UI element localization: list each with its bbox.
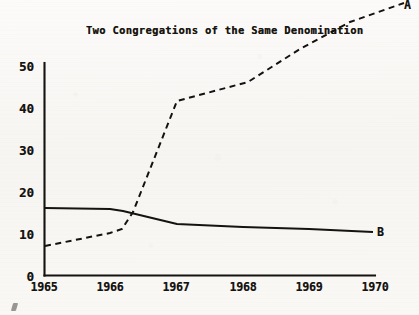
series-line-b <box>45 208 373 232</box>
chart-figure: Two Congregations of the Same Denominati… <box>0 0 419 315</box>
axis-lines <box>45 63 376 276</box>
chart-plot-area <box>0 0 419 315</box>
